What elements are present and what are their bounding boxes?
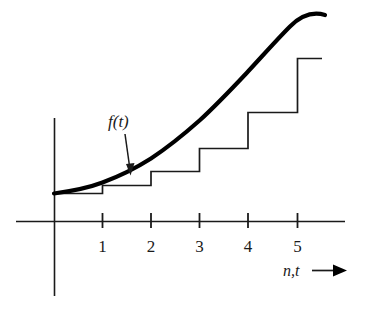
function-label: f(t) — [108, 112, 129, 131]
tick-label-1: 1 — [98, 237, 107, 256]
x-axis-label: n,t — [283, 262, 300, 279]
step-function-path — [55, 59, 323, 194]
function-curve — [54, 14, 325, 194]
figure-root: 1 2 3 4 5 f(t) n,t — [0, 0, 365, 320]
tick-label-2: 2 — [147, 237, 156, 256]
tick-label-3: 3 — [195, 237, 204, 256]
tick-label-4: 4 — [244, 237, 253, 256]
annotation-pointer-line — [125, 134, 130, 166]
tick-label-5: 5 — [293, 237, 302, 256]
step-function-diagram: 1 2 3 4 5 f(t) n,t — [0, 0, 365, 320]
arrow-right-icon — [333, 265, 347, 277]
